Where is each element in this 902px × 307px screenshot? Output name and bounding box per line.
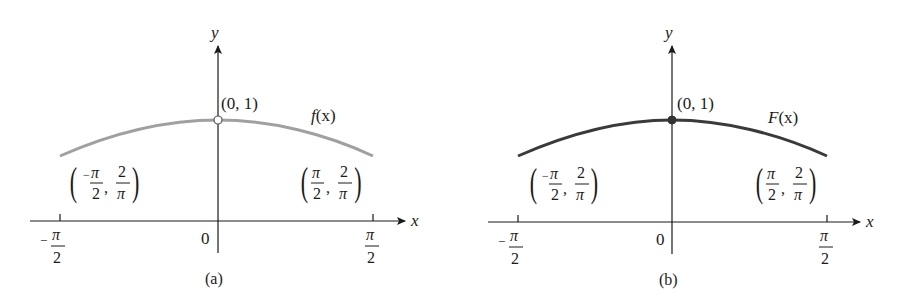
panel-a: y x 0 (0, 1) f(x) ( − π 2 , 2 π ) ( π 2 … xyxy=(30,23,419,288)
svg-text:(: ( xyxy=(301,159,308,204)
svg-text:2: 2 xyxy=(577,164,585,181)
svg-text:2: 2 xyxy=(511,250,519,267)
svg-text:π: π xyxy=(366,226,375,243)
svg-text:π: π xyxy=(794,186,803,203)
x-axis-label: x xyxy=(410,211,419,230)
tick-label-neg-pi-over-2: − π 2 xyxy=(40,226,65,266)
svg-text:2: 2 xyxy=(367,249,375,266)
svg-text:(: ( xyxy=(756,160,763,205)
svg-text:,: , xyxy=(563,180,567,197)
svg-text:π: π xyxy=(576,186,585,203)
svg-text:π: π xyxy=(117,185,126,202)
svg-text:(: ( xyxy=(530,160,537,205)
svg-text:π: π xyxy=(339,185,348,202)
function-label: f(x) xyxy=(311,106,336,125)
panel-label-b: (b) xyxy=(659,271,678,289)
point-label-peak: (0, 1) xyxy=(221,94,258,113)
svg-text:,: , xyxy=(781,180,785,197)
point-label-left: ( − π 2 , 2 π ) xyxy=(70,159,139,204)
svg-text:2: 2 xyxy=(92,185,100,202)
origin-label: 0 xyxy=(201,229,210,248)
svg-text:,: , xyxy=(326,179,330,196)
tick-label-pi-over-2: π 2 xyxy=(819,227,833,267)
svg-text:): ) xyxy=(132,159,139,204)
svg-text:−: − xyxy=(40,233,47,248)
svg-text:π: π xyxy=(91,164,100,181)
svg-text:π: π xyxy=(52,226,61,243)
svg-text:): ) xyxy=(809,160,816,205)
svg-text:): ) xyxy=(354,159,361,204)
svg-text:π: π xyxy=(312,164,321,181)
y-axis-label: y xyxy=(209,23,219,42)
point-label-peak: (0, 1) xyxy=(677,94,714,113)
tick-label-pi-over-2: π 2 xyxy=(365,226,379,266)
svg-text:): ) xyxy=(591,160,598,205)
svg-text:(: ( xyxy=(70,159,77,204)
svg-text:−: − xyxy=(542,169,549,183)
svg-text:2: 2 xyxy=(551,186,559,203)
function-label: F(x) xyxy=(767,108,798,127)
svg-text:2: 2 xyxy=(821,250,829,267)
filled-point-marker xyxy=(668,116,676,124)
svg-text:2: 2 xyxy=(118,163,126,180)
svg-text:π: π xyxy=(550,165,559,182)
svg-text:−: − xyxy=(498,234,505,249)
svg-text:,: , xyxy=(104,179,108,196)
svg-text:2: 2 xyxy=(313,185,321,202)
tick-label-neg-pi-over-2: − π 2 xyxy=(498,227,523,267)
svg-text:−: − xyxy=(83,168,90,182)
svg-text:2: 2 xyxy=(768,186,776,203)
y-axis-label: y xyxy=(663,23,673,42)
point-label-right: ( π 2 , 2 π ) xyxy=(756,160,817,205)
x-axis-label: x xyxy=(865,212,874,231)
panel-b: y x 0 (0, 1) F(x) ( − π 2 , 2 π ) ( π 2 … xyxy=(488,23,874,289)
svg-text:π: π xyxy=(510,227,519,244)
figure: y x 0 (0, 1) f(x) ( − π 2 , 2 π ) ( π 2 … xyxy=(0,0,902,307)
open-point-marker xyxy=(214,116,222,124)
curve-f xyxy=(60,120,373,156)
svg-text:π: π xyxy=(767,165,776,182)
svg-text:2: 2 xyxy=(340,163,348,180)
point-label-right: ( π 2 , 2 π ) xyxy=(301,159,362,204)
panel-label-a: (a) xyxy=(205,270,223,288)
svg-text:2: 2 xyxy=(53,249,61,266)
origin-label: 0 xyxy=(656,230,665,249)
svg-text:π: π xyxy=(820,227,829,244)
point-label-left: ( − π 2 , 2 π ) xyxy=(530,160,598,205)
svg-text:2: 2 xyxy=(795,164,803,181)
